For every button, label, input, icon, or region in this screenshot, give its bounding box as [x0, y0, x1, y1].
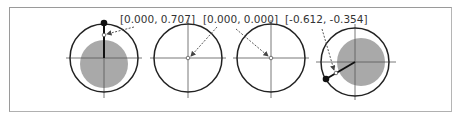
value-label: [-0.612, -0.354]: [285, 13, 368, 25]
label-arrow: [191, 27, 217, 56]
value-marker: [269, 56, 273, 60]
panel-4: [-0.612, -0.354]: [285, 13, 396, 100]
value-label: [0.000, 0.000]: [203, 13, 278, 25]
value-marker: [186, 56, 190, 60]
unit-circle-diagram: [0.000, 0.707] [0.000, 0.000] [-0.612, -…: [0, 0, 458, 116]
value-marker: [334, 71, 338, 75]
point-marker: [101, 20, 108, 27]
value-marker: [102, 33, 106, 37]
value-label: [0.000, 0.707]: [120, 13, 195, 25]
point-marker: [323, 76, 330, 83]
panel-3: [233, 20, 309, 98]
